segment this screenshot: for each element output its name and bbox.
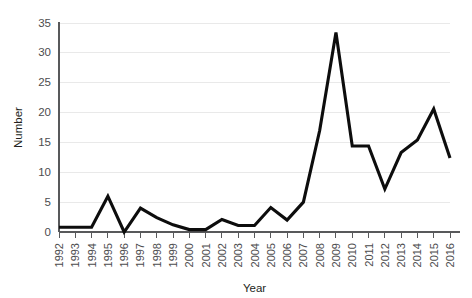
x-axis-tick-label: 1997 bbox=[134, 243, 146, 267]
x-axis-tick-label: 2006 bbox=[281, 243, 293, 267]
x-axis-title: Year bbox=[243, 282, 266, 294]
x-axis-tick-label: 2015 bbox=[428, 243, 440, 267]
y-axis-tick-label: 0 bbox=[45, 226, 51, 238]
y-axis-tick-label: 15 bbox=[38, 136, 51, 148]
x-axis-tick-label: 2004 bbox=[249, 243, 261, 267]
x-axis-tick-label: 2016 bbox=[444, 243, 456, 267]
x-axis-tick-label: 2001 bbox=[200, 243, 212, 267]
y-axis-tick-label: 5 bbox=[45, 196, 51, 208]
y-axis-tick-label: 20 bbox=[38, 106, 51, 118]
x-axis-tick-label: 1992 bbox=[53, 243, 65, 267]
x-axis-tick-label: 1993 bbox=[69, 243, 81, 267]
x-axis-tick-label: 2008 bbox=[314, 243, 326, 267]
x-axis-tick-label: 2011 bbox=[363, 243, 375, 267]
x-axis-tick-label: 2003 bbox=[232, 243, 244, 267]
x-axis-tick-label: 2009 bbox=[330, 243, 342, 267]
x-axis-tick-label: 1995 bbox=[102, 243, 114, 267]
x-axis-tick-label: 1994 bbox=[86, 243, 98, 267]
x-axis-tick-label: 1999 bbox=[167, 243, 179, 267]
x-axis-tick-labels: 1992199319941995199619971998199920002001… bbox=[53, 243, 456, 267]
x-axis-tick-label: 1996 bbox=[118, 243, 130, 267]
y-axis-tick-label: 30 bbox=[38, 46, 51, 58]
chart-canvas: 05101520253035 1992199319941995199619971… bbox=[0, 0, 472, 298]
x-axis-tick-label: 2005 bbox=[265, 243, 277, 267]
y-axis-tick-label: 25 bbox=[38, 76, 51, 88]
x-axis-tick-label: 2002 bbox=[216, 243, 228, 267]
x-axis-tick-label: 2007 bbox=[297, 243, 309, 267]
x-axis-tick-label: 2012 bbox=[379, 243, 391, 267]
x-axis-tick-label: 2010 bbox=[346, 243, 358, 267]
y-axis-title: Number bbox=[12, 107, 24, 148]
x-axis-tick-label: 2013 bbox=[395, 243, 407, 267]
x-axis-tick-label: 2014 bbox=[411, 243, 423, 267]
line-chart: 05101520253035 1992199319941995199619971… bbox=[0, 0, 472, 298]
x-axis-tick-label: 1998 bbox=[151, 243, 163, 267]
x-axis-tick-label: 2000 bbox=[183, 243, 195, 267]
y-axis-tick-label: 10 bbox=[38, 166, 51, 178]
y-axis-tick-label: 35 bbox=[38, 17, 51, 29]
